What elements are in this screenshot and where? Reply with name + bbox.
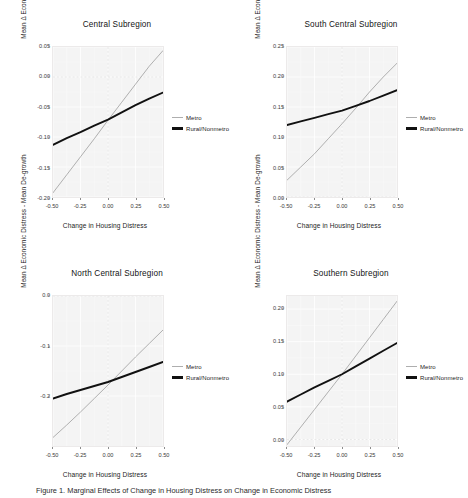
panel-title: Southern Subregion xyxy=(234,269,468,278)
legend-item-label: Rural/Nonmetro xyxy=(186,375,229,381)
legend-item-label: Rural/Nonmetro xyxy=(420,375,463,381)
x-tick-mark xyxy=(398,447,399,449)
x-axis: -0.50-0.250.000.250.50 xyxy=(52,198,164,214)
y-tick-mark xyxy=(48,137,50,138)
legend-line-icon xyxy=(406,376,417,378)
y-tick-label: -0.05 xyxy=(4,104,50,110)
x-axis: -0.50-0.250.000.250.50 xyxy=(286,198,398,214)
y-tick-label: 0.00 xyxy=(4,73,50,79)
plot-area xyxy=(52,46,164,198)
legend-item[interactable]: Rural/Nonmetro xyxy=(172,372,232,383)
y-tick-mark xyxy=(48,76,50,77)
x-tick-mark xyxy=(314,198,315,200)
y-tick-label: 0.10 xyxy=(238,371,284,377)
panel-title: South Central Subregion xyxy=(234,20,468,29)
x-tick-mark xyxy=(314,447,315,449)
y-tick-label: 0.00 xyxy=(238,437,284,443)
legend-line-icon xyxy=(406,127,417,129)
legend-line-icon xyxy=(172,366,183,367)
legend-item-label: Rural/Nonmetro xyxy=(186,126,229,132)
y-tick-mark xyxy=(282,198,284,199)
y-tick-label: 0.05 xyxy=(4,43,50,49)
y-tick-mark xyxy=(282,407,284,408)
x-tick-mark xyxy=(370,198,371,200)
legend-item[interactable]: Metro xyxy=(172,361,232,372)
panel-title: North Central Subregion xyxy=(0,269,234,278)
y-tick-label: 0.15 xyxy=(238,104,284,110)
y-tick-mark xyxy=(48,396,50,397)
y-tick-mark xyxy=(48,167,50,168)
y-tick-label: -0.2 xyxy=(4,393,50,399)
x-tick-label: 0.50 xyxy=(147,203,181,209)
y-tick-mark xyxy=(282,374,284,375)
y-tick-label: 0.25 xyxy=(238,43,284,49)
y-tick-mark xyxy=(282,106,284,107)
y-tick-label: 0.05 xyxy=(238,404,284,410)
y-tick-label: 0.20 xyxy=(238,305,284,311)
y-tick-mark xyxy=(48,106,50,107)
x-tick-label: 0.50 xyxy=(147,452,181,458)
legend-item[interactable]: Metro xyxy=(172,112,232,123)
y-tick-label: 0.15 xyxy=(238,338,284,344)
legend: MetroRural/Nonmetro xyxy=(406,361,466,383)
x-tick-mark xyxy=(342,198,343,200)
y-tick-mark xyxy=(48,198,50,199)
y-axis-title: Mean Δ Economic Distress - Mean De-growt… xyxy=(18,141,30,301)
figure-multi-panel-marginal-effects: Central Subregion Mean Δ Economic Distre… xyxy=(0,0,468,498)
x-axis-title: Change in Housing Distress xyxy=(264,471,414,478)
legend-item-label: Metro xyxy=(186,115,202,121)
plot-area xyxy=(52,295,164,447)
x-tick-label: 0.50 xyxy=(381,452,415,458)
y-tick-mark xyxy=(282,167,284,168)
legend-line-icon xyxy=(172,127,183,129)
y-axis-title: Mean Δ Economic Distress - Mean De-growt… xyxy=(252,141,264,301)
y-axis-title-text: Mean Δ Economic Distress - Mean De-growt… xyxy=(252,141,264,301)
legend-item[interactable]: Metro xyxy=(406,361,466,372)
plot-area xyxy=(286,46,398,198)
plot-svg xyxy=(287,296,397,446)
x-axis: -0.50-0.250.000.250.50 xyxy=(286,447,398,463)
legend-line-icon xyxy=(172,376,183,378)
y-axis: 0.200.150.100.050.00 xyxy=(234,295,284,447)
x-tick-mark xyxy=(80,198,81,200)
facet-panel: Central Subregion Mean Δ Economic Distre… xyxy=(0,0,234,249)
x-axis-title: Change in Housing Distress xyxy=(30,222,180,229)
plot-svg xyxy=(287,47,397,197)
x-axis-title: Change in Housing Distress xyxy=(264,222,414,229)
x-tick-mark xyxy=(286,447,287,449)
x-tick-mark xyxy=(136,198,137,200)
facet-panel: North Central Subregion Mean Δ Economic … xyxy=(0,249,234,498)
legend-item-label: Rural/Nonmetro xyxy=(420,126,463,132)
y-tick-mark xyxy=(48,295,50,296)
x-tick-mark xyxy=(342,447,343,449)
x-tick-mark xyxy=(80,447,81,449)
legend-item[interactable]: Rural/Nonmetro xyxy=(172,123,232,134)
legend-item-label: Metro xyxy=(420,364,436,370)
y-axis: 0.0-0.1-0.2 xyxy=(0,295,50,447)
legend-line-icon xyxy=(406,117,417,118)
legend-item[interactable]: Rural/Nonmetro xyxy=(406,123,466,134)
legend-item[interactable]: Metro xyxy=(406,112,466,123)
legend-item[interactable]: Rural/Nonmetro xyxy=(406,372,466,383)
x-tick-mark xyxy=(164,198,165,200)
y-tick-mark xyxy=(282,76,284,77)
figure-caption: Figure 1. Marginal Effects of Change in … xyxy=(36,486,436,498)
legend-item-label: Metro xyxy=(420,115,436,121)
facet-panel: Southern Subregion Mean Δ Economic Distr… xyxy=(234,249,468,498)
x-tick-mark xyxy=(286,198,287,200)
y-tick-label: -0.1 xyxy=(4,343,50,349)
y-tick-mark xyxy=(48,46,50,47)
y-tick-mark xyxy=(282,308,284,309)
legend-line-icon xyxy=(406,366,417,367)
x-tick-mark xyxy=(52,198,53,200)
y-tick-label: 0.20 xyxy=(238,73,284,79)
legend: MetroRural/Nonmetro xyxy=(172,361,232,383)
y-tick-mark xyxy=(282,341,284,342)
facet-panel: South Central Subregion Mean Δ Economic … xyxy=(234,0,468,249)
x-tick-mark xyxy=(370,447,371,449)
y-tick-label: 0.10 xyxy=(238,134,284,140)
x-tick-mark xyxy=(52,447,53,449)
y-tick-label: 0.0 xyxy=(4,292,50,298)
x-tick-label: 0.50 xyxy=(381,203,415,209)
x-axis-title: Change in Housing Distress xyxy=(30,471,180,478)
